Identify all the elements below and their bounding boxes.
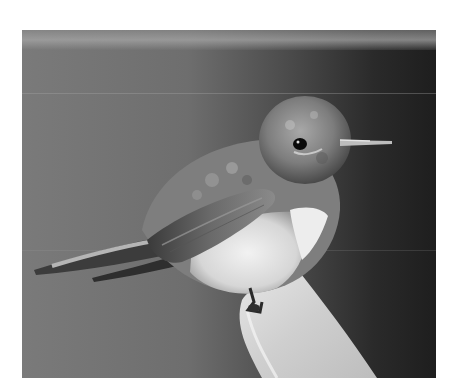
- bird-head: [259, 96, 351, 184]
- bird-eye: [293, 138, 307, 150]
- hummingbird-photo: [22, 30, 436, 378]
- photo-illustration: [22, 30, 436, 378]
- bird-beak: [340, 140, 392, 146]
